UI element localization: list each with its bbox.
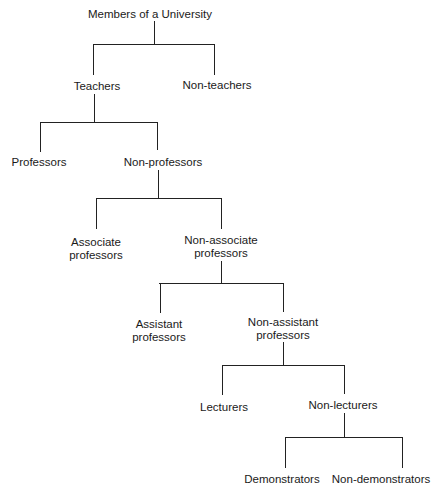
connector-non-lecturers-branch: [285, 437, 402, 438]
connector-teachers-stem: [94, 94, 95, 122]
node-associate-professors: Associate professors: [69, 236, 123, 262]
connector-non-professors-stem: [158, 170, 159, 198]
connector-to-professors: [40, 122, 41, 152]
connector-root-stem: [154, 21, 155, 44]
node-label: Non-lecturers: [308, 399, 377, 411]
node-label-line-2: professors: [184, 247, 258, 260]
node-teachers: Teachers: [74, 80, 121, 93]
connector-non-associate-stem: [221, 261, 222, 283]
university-members-tree: Members of a University Teachers Non-tea…: [0, 0, 435, 494]
node-lecturers: Lecturers: [200, 401, 248, 414]
node-members-of-a-university: Members of a University: [88, 8, 212, 21]
node-label: Non-professors: [124, 156, 203, 168]
node-label: Non-demonstrators: [332, 473, 430, 485]
node-non-associate-professors: Non-associate professors: [184, 234, 258, 260]
node-non-demonstrators: Non-demonstrators: [332, 473, 430, 486]
node-professors: Professors: [12, 156, 67, 169]
connector-to-teachers: [93, 44, 94, 75]
connector-to-non-assistant-professors: [283, 283, 284, 312]
node-non-teachers: Non-teachers: [182, 79, 251, 92]
node-label: Members of a University: [88, 8, 212, 20]
node-label-line-1: Assistant: [132, 318, 186, 331]
node-label-line-2: professors: [69, 249, 123, 262]
connector-to-lecturers: [222, 365, 223, 395]
node-non-assistant-professors: Non-assistant professors: [248, 316, 318, 342]
connector-non-professors-branch: [96, 198, 221, 199]
connector-non-lecturers-stem: [344, 413, 345, 437]
node-label: Lecturers: [200, 401, 248, 413]
connector-non-assistant-branch: [222, 365, 344, 366]
node-non-lecturers: Non-lecturers: [308, 399, 377, 412]
connector-to-non-teachers: [214, 44, 215, 75]
connector-root-branch: [93, 44, 214, 45]
connector-to-non-professors: [157, 122, 158, 150]
node-label: Non-teachers: [182, 79, 251, 91]
node-label-line-1: Non-associate: [184, 234, 258, 247]
node-label-line-1: Non-assistant: [248, 316, 318, 329]
connector-to-non-lecturers: [344, 365, 345, 394]
connector-to-assistant-professors: [160, 283, 161, 313]
connector-to-associate-professors: [96, 198, 97, 229]
connector-to-demonstrators: [285, 437, 286, 468]
node-label: Teachers: [74, 80, 121, 92]
connector-non-assistant-stem: [283, 342, 284, 365]
node-label-line-1: Associate: [69, 236, 123, 249]
node-label-line-2: professors: [248, 329, 318, 342]
node-label-line-2: professors: [132, 331, 186, 344]
node-label: Demonstrators: [244, 473, 319, 485]
node-assistant-professors: Assistant professors: [132, 318, 186, 344]
node-label: Professors: [12, 156, 67, 168]
connector-to-non-associate-professors: [221, 198, 222, 229]
node-demonstrators: Demonstrators: [244, 473, 319, 486]
node-non-professors: Non-professors: [124, 156, 203, 169]
connector-teachers-branch: [40, 122, 157, 123]
connector-to-non-demonstrators: [402, 437, 403, 468]
connector-non-associate-branch: [159, 283, 283, 284]
